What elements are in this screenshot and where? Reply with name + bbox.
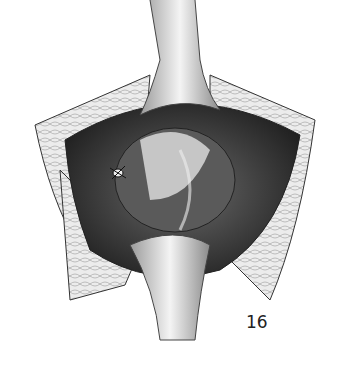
surgical-illustration: 16	[0, 0, 355, 365]
figure-number: 16	[246, 312, 268, 332]
lower-retractor	[130, 235, 210, 340]
upper-retractor	[140, 0, 220, 115]
illustration-drawing	[0, 0, 355, 365]
